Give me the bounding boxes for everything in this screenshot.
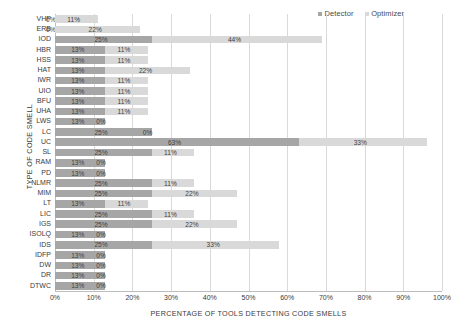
y-tick-label: UIO xyxy=(39,86,51,97)
stacked-bar: 25%11% xyxy=(55,210,442,218)
bar-value-label: 11% xyxy=(118,199,131,208)
y-axis-tick-labels: VHPERBIODHBRHSSHATIWRUIOBFUUHALWSLCUCSLR… xyxy=(0,14,53,291)
y-tick-label: IWR xyxy=(37,75,51,86)
bar-value-label: 13% xyxy=(71,107,84,116)
bar-value-label: 44% xyxy=(228,35,241,44)
bar-row: 13%0% xyxy=(55,281,442,292)
bar-row: 13%11% xyxy=(55,55,442,66)
bar-value-label: 13% xyxy=(71,76,84,85)
bar-row: 63%33% xyxy=(55,137,442,148)
bar-value-label: 11% xyxy=(118,97,131,106)
bar-value-label: 13% xyxy=(71,45,84,54)
bar-value-label: 11% xyxy=(118,76,131,85)
bar-value-label: 33% xyxy=(354,138,367,147)
bar-value-label: 63% xyxy=(168,138,181,147)
bar-value-label: 13% xyxy=(71,251,84,260)
bar-row: 25%22% xyxy=(55,219,442,230)
y-tick-label: DW xyxy=(39,260,51,271)
stacked-bar: 13%11% xyxy=(55,77,442,85)
bar-row: 25%0% xyxy=(55,127,442,138)
x-tick-label: 20% xyxy=(125,294,139,301)
bar-row: 13%0% xyxy=(55,260,442,271)
x-axis-title: PERCENTAGE OF TOOLS DETECTING CODE SMELL… xyxy=(55,309,442,318)
stacked-bar: 25%44% xyxy=(55,36,442,44)
stacked-bar: 13%0% xyxy=(55,159,442,167)
bar-row: 25%33% xyxy=(55,240,442,251)
y-tick-label: SL xyxy=(42,147,51,158)
bar-row: 13%0% xyxy=(55,168,442,179)
x-tick-label: 80% xyxy=(358,294,372,301)
bar-row: 13%11% xyxy=(55,86,442,97)
bar-row: 13%11% xyxy=(55,45,442,56)
bar-row: 0%22% xyxy=(55,24,442,35)
y-tick-label: LC xyxy=(42,127,51,138)
y-tick-label: IDFP xyxy=(35,250,51,261)
y-tick-label: ISOLQ xyxy=(30,229,51,240)
bar-row: 13%22% xyxy=(55,65,442,76)
bar-value-label: 22% xyxy=(185,189,198,198)
bar-value-label: 0% xyxy=(96,251,106,260)
bar-value-label: 25% xyxy=(94,210,107,219)
bar-value-label: 0% xyxy=(96,117,106,126)
bar-value-label: 11% xyxy=(118,56,131,65)
stacked-bar: 13%11% xyxy=(55,87,442,95)
bar-row: 25%44% xyxy=(55,34,442,45)
bar-row: 13%11% xyxy=(55,106,442,117)
bar-value-label: 25% xyxy=(94,148,107,157)
bar-value-label: 22% xyxy=(89,25,102,34)
plot-area: 0%11%0%22%25%44%13%11%13%11%13%22%13%11%… xyxy=(55,14,442,291)
stacked-bar: 13%11% xyxy=(55,200,442,208)
y-tick-label: MIM xyxy=(37,188,51,199)
y-tick-label: IDS xyxy=(39,240,51,251)
stacked-bar: 13%0% xyxy=(55,118,442,126)
stacked-bar: 0%22% xyxy=(55,26,442,34)
stacked-bar: 13%0% xyxy=(55,231,442,239)
stacked-bar: 25%0% xyxy=(55,128,442,136)
stacked-bar: 63%33% xyxy=(55,138,442,146)
y-tick-label: UHA xyxy=(36,106,51,117)
stacked-bar: 25%22% xyxy=(55,220,442,228)
y-tick-label: IOD xyxy=(39,34,51,45)
bar-row: 13%0% xyxy=(55,229,442,240)
y-tick-label: PD xyxy=(41,168,51,179)
bar-value-label: 0% xyxy=(96,261,106,270)
bar-row: 13%0% xyxy=(55,270,442,281)
y-tick-label: BFU xyxy=(37,96,51,107)
stacked-bar: 13%0% xyxy=(55,169,442,177)
bar-value-label: 13% xyxy=(71,66,84,75)
bar-value-label: 11% xyxy=(118,87,131,96)
x-tick-label: 70% xyxy=(319,294,333,301)
bar-row: 13%11% xyxy=(55,75,442,86)
stacked-bar: 13%22% xyxy=(55,67,442,75)
bar-value-label: 13% xyxy=(71,158,84,167)
stacked-bar: 25%11% xyxy=(55,149,442,157)
x-tick-label: 30% xyxy=(164,294,178,301)
bar-value-label: 25% xyxy=(94,179,107,188)
bar-value-label: 0% xyxy=(96,169,106,178)
bar-value-label: 11% xyxy=(164,179,177,188)
y-tick-label: NLMR xyxy=(31,178,51,189)
stacked-bar: 13%0% xyxy=(55,282,442,290)
bar-value-label: 13% xyxy=(71,117,84,126)
bar-value-label: 13% xyxy=(71,56,84,65)
bar-value-label: 0% xyxy=(143,128,153,137)
bar-value-label: 11% xyxy=(164,148,177,157)
bar-row: 0%11% xyxy=(55,14,442,25)
stacked-bar: 13%11% xyxy=(55,108,442,116)
stacked-bar: 25%33% xyxy=(55,241,442,249)
bar-row: 13%0% xyxy=(55,250,442,261)
y-tick-label: HSS xyxy=(37,55,51,66)
bar-value-label: 25% xyxy=(94,35,107,44)
y-tick-label: LWS xyxy=(36,116,51,127)
y-tick-label: DTWC xyxy=(30,281,51,292)
x-tick-label: 90% xyxy=(396,294,410,301)
stacked-bar: 13%11% xyxy=(55,56,442,64)
x-tick-label: 0% xyxy=(50,294,60,301)
bar-row: 25%11% xyxy=(55,147,442,158)
y-tick-label: LIC xyxy=(40,209,51,220)
bar-value-label: 0% xyxy=(96,271,106,280)
bar-value-label: 13% xyxy=(71,271,84,280)
stacked-bar: 13%0% xyxy=(55,272,442,280)
stacked-bar: 25%11% xyxy=(55,179,442,187)
bar-value-label: 13% xyxy=(71,230,84,239)
